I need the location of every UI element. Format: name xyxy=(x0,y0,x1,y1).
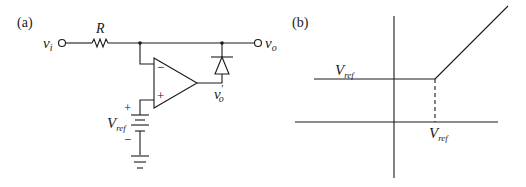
output-label: vo xyxy=(265,35,277,53)
vref-label: Vref xyxy=(107,115,127,133)
panel-a-label: (a) xyxy=(17,15,33,31)
wire-opamp-output xyxy=(197,74,222,83)
opamp-output-label: v′o xyxy=(214,83,224,104)
wire-noninverting-input xyxy=(140,100,154,115)
resistor xyxy=(92,39,110,47)
panel-b-label: (b) xyxy=(292,15,309,31)
resistor-label: R xyxy=(95,21,105,36)
opamp-minus-sign: − xyxy=(157,60,164,75)
wire-inverting-input xyxy=(140,43,154,64)
y-level-vref-label: Vref xyxy=(335,62,355,80)
curve-rising-segment xyxy=(435,6,508,79)
input-terminal xyxy=(59,40,66,47)
x-break-vref-label: Vref xyxy=(429,125,449,143)
diode xyxy=(215,57,229,74)
input-label: vi xyxy=(43,35,53,53)
output-terminal xyxy=(255,40,262,47)
diagram-canvas: (a) vi R vo − + v′o + Vref − (b) xyxy=(0,0,526,187)
opamp-plus-sign: + xyxy=(157,88,164,103)
battery-plus-sign: + xyxy=(124,100,131,115)
battery-minus-sign: − xyxy=(124,132,131,147)
